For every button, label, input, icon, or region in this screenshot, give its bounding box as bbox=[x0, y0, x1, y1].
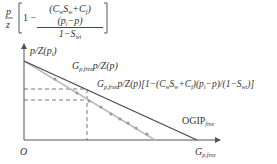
ogip-label: OGIPfree bbox=[182, 116, 214, 129]
y-label-p: p bbox=[6, 7, 11, 17]
y-label-fraction: (CwSw+Cf)(pi−p) 1−Swi bbox=[37, 3, 103, 40]
y-intercept-label: p/Z(pi) bbox=[30, 46, 57, 59]
y-label-one-minus: 1 − bbox=[23, 13, 36, 23]
origin-label: O bbox=[20, 147, 27, 157]
bracket-left bbox=[19, 3, 22, 33]
x-axis-label: Gp,free bbox=[195, 147, 216, 160]
y-label-z: z bbox=[6, 20, 10, 30]
conventional-line-label: Gp,freep/Z(p) bbox=[72, 61, 118, 74]
corrected-line-label: Gp,freep/Z(p)[1−(CwSw+Cf)(pi−p)/(1−Swi)] bbox=[97, 79, 254, 92]
bracket-right bbox=[104, 3, 107, 33]
